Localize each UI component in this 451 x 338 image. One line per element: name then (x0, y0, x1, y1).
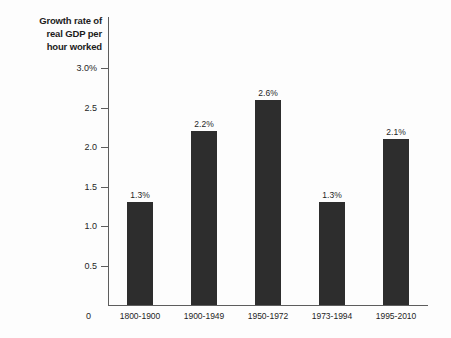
y-axis-title: Growth rate of real GDP per hour worked (8, 14, 102, 54)
y-axis-tick (101, 226, 108, 227)
bar-value-label: 2.2% (194, 119, 213, 129)
x-axis-category-label: 1995-2010 (376, 311, 417, 321)
y-axis-line (108, 17, 109, 306)
bar-value-label: 2.1% (386, 127, 405, 137)
chart-figure: Growth rate of real GDP per hour worked … (0, 0, 451, 338)
y-axis-tick-label: 3.0% (0, 63, 97, 73)
x-axis-category-label: 1950-1972 (248, 311, 289, 321)
y-axis-tick (101, 68, 108, 69)
y-axis-title-line-3: hour worked (8, 40, 102, 53)
bar (319, 202, 345, 305)
y-axis-tick-label: 2.0 (0, 142, 97, 152)
bar (255, 100, 281, 305)
y-axis-tick-label: 1.5 (0, 182, 97, 192)
bar (191, 131, 217, 305)
x-axis-category-label: 1973-1994 (312, 311, 353, 321)
y-axis-tick (101, 108, 108, 109)
bar (383, 139, 409, 305)
y-axis-title-line-2: real GDP per (8, 27, 102, 40)
x-axis-category-label: 1800-1900 (120, 311, 161, 321)
bar-value-label: 1.3% (130, 190, 149, 200)
y-axis-tick (101, 147, 108, 148)
y-axis-origin-label: 0 (86, 311, 91, 321)
y-axis-tick (101, 187, 108, 188)
y-axis-tick (101, 266, 108, 267)
y-axis-tick-label: 1.0 (0, 221, 97, 231)
y-axis-tick-label: 2.5 (0, 103, 97, 113)
y-axis-tick-label: 0.5 (0, 261, 97, 271)
bar (127, 202, 153, 305)
y-axis-title-line-1: Growth rate of (8, 14, 102, 27)
bar-value-label: 2.6% (258, 88, 277, 98)
x-axis-line (108, 305, 428, 306)
bar-value-label: 1.3% (322, 190, 341, 200)
x-axis-category-label: 1900-1949 (184, 311, 225, 321)
